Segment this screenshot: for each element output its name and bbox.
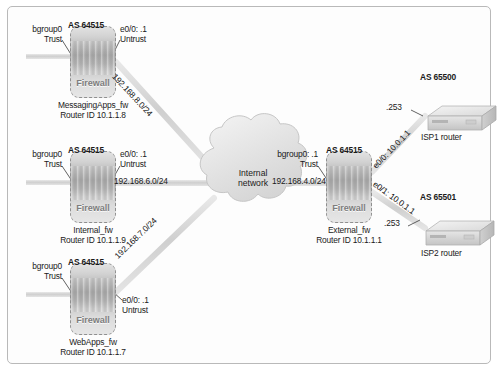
peer-address-isp2: .253 — [384, 219, 400, 228]
firewall-name-webapps: WebApps_fw — [43, 338, 143, 347]
as-label-isp2: AS 65501 — [420, 193, 456, 202]
firewall-icon-webapps[interactable]: Firewall — [70, 263, 116, 335]
firewall-icon-label: Firewall — [327, 203, 371, 213]
untrust-label-webapps-line1: e0/0: .1 — [122, 296, 149, 305]
as-label-internal: AS 64515 — [68, 146, 104, 155]
firewall-name-messaging: MessagingApps_fw — [43, 101, 143, 110]
trust-label-internal-line2: Trust — [0, 160, 62, 169]
untrust-label-internal-line1: e0/0: .1 — [120, 150, 147, 159]
firewall-flame-graphic — [71, 41, 115, 75]
firewall-icon-internal[interactable]: Firewall — [70, 151, 116, 223]
router-id-webapps: Router ID 10.1.1.7 — [43, 348, 143, 357]
untrust-label-webapps-line2: Untrust — [122, 306, 148, 315]
trust-label-external-line2: Trust — [252, 160, 318, 169]
trust-label-webapps-line1: bgroup0 — [0, 262, 62, 271]
firewall-icon-label: Firewall — [71, 203, 115, 213]
router-name-isp1: ISP1 router — [421, 133, 462, 142]
firewall-icon-external[interactable]: Firewall — [326, 151, 372, 223]
trust-label-external-line1: bgroup0: .1 — [252, 150, 318, 159]
firewall-flame-graphic — [71, 166, 115, 200]
firewall-flame-graphic — [71, 278, 115, 312]
untrust-label-messaging-line2: Untrust — [120, 35, 146, 44]
router-id-external: Router ID 10.1.1.1 — [299, 236, 399, 245]
router-id-messaging: Router ID 10.1.1.8 — [43, 111, 143, 120]
as-label-isp1: AS 65500 — [420, 73, 456, 82]
firewall-name-internal: Internal_fw — [43, 226, 143, 235]
firewall-icon-label: Firewall — [71, 78, 115, 88]
network-diagram-figure: Firewall Firewall Firewall Firewall Inte… — [0, 0, 501, 373]
link-label-cloud-external: 192.168.4.0/24 — [272, 177, 326, 186]
peer-address-isp1: .253 — [386, 103, 402, 112]
untrust-label-messaging-line1: e0/0: .1 — [120, 25, 147, 34]
firewall-flame-graphic — [327, 166, 371, 200]
trust-label-messaging-line2: Trust — [0, 35, 62, 44]
link-label-internal-cloud: 192.168.6.0/24 — [114, 177, 168, 186]
trust-label-internal-line1: bgroup0 — [0, 150, 62, 159]
firewall-icon-label: Firewall — [71, 315, 115, 325]
trust-label-messaging-line1: bgroup0 — [0, 25, 62, 34]
as-label-external: AS 64515 — [326, 146, 362, 155]
as-label-messaging: AS 64515 — [68, 21, 104, 30]
untrust-label-internal-line2: Untrust — [120, 160, 146, 169]
trust-label-webapps-line2: Trust — [0, 272, 62, 281]
firewall-icon-messaging[interactable]: Firewall — [70, 26, 116, 98]
as-label-webapps: AS 64515 — [68, 258, 104, 267]
router-name-isp2: ISP2 router — [421, 249, 462, 258]
